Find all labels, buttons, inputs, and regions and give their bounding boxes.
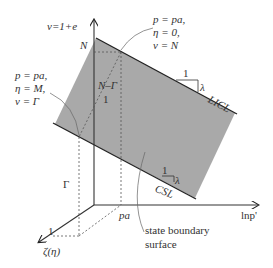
top-annotation-2: η = 0, [153, 26, 180, 38]
surface-label-1: state boundary [145, 224, 209, 236]
surface-fill [55, 38, 235, 198]
lnp-axis-label: lnp' [241, 209, 257, 221]
licl-slope-rise: λ [200, 81, 205, 93]
left-annotation-2: η = M, [15, 82, 45, 94]
left-annotation-3: v = Γ [15, 95, 39, 107]
diagram-graphics [0, 0, 273, 268]
csl-slope-run: 1 [162, 164, 168, 176]
surface-label-2: surface [145, 238, 177, 250]
v-axis-label: v=1+e [47, 20, 77, 32]
licl-slope-run: 1 [183, 67, 189, 79]
top-leader [121, 28, 153, 50]
left-annotation-1: p = pa, [15, 69, 47, 81]
top-annotation-3: v = N [153, 39, 178, 51]
pa-label: pa [119, 209, 130, 221]
depth-one-label: 1 [48, 225, 54, 237]
csl-slope-rise: λ [175, 174, 180, 186]
n-label: N [80, 39, 87, 51]
top-annotation-1: p = pa, [153, 13, 185, 25]
gamma-label: Γ [63, 178, 69, 190]
zeta-axis-label: ζ(η) [43, 245, 60, 257]
slope-one-label: 1 [103, 93, 109, 105]
state-boundary-surface-diagram: v=1+e N N–Γ 1 p = pa, η = M, v = Γ p = p… [0, 0, 273, 268]
n-minus-gamma-label: N–Γ [98, 79, 117, 91]
